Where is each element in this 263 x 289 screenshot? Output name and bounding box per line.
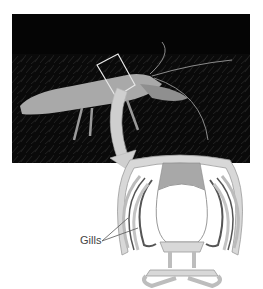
cross-section-diagram: [0, 0, 263, 289]
gills-label: Gills: [80, 234, 101, 246]
gills-left: [124, 176, 156, 250]
arrow-icon: [110, 88, 136, 170]
